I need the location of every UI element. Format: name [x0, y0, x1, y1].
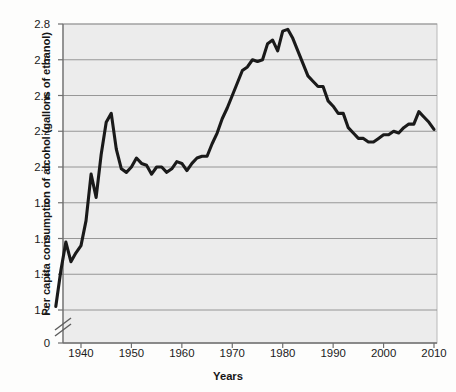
- line-chart-plot: [0, 0, 456, 392]
- x-axis-tick-label: 2000: [371, 347, 396, 359]
- x-axis-tick-label: 1970: [220, 347, 245, 359]
- x-axis-tick-label: 2010: [421, 347, 446, 359]
- x-axis-tick-label: 1940: [68, 347, 93, 359]
- plot-background-group: [63, 24, 437, 343]
- chart-figure: Per capita consumption of alcohol (gallo…: [0, 0, 456, 392]
- x-axis-tick-label: 1980: [270, 347, 295, 359]
- x-axis-tick-label: 1950: [119, 347, 144, 359]
- plot-area-background: [63, 24, 437, 343]
- x-axis-tick-label: 1960: [169, 347, 194, 359]
- x-axis-tick-label: 1990: [320, 347, 345, 359]
